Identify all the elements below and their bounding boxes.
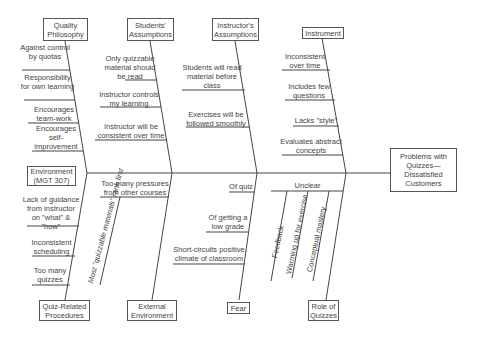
effect-box: Problems with Quizzes—Dissatisfied Custo… [390,148,457,192]
category-quiz-related-procedures: Quiz-Related Procedures [39,300,90,321]
cause-label: Lack of guidance from instructor on "wha… [22,195,80,231]
category-instrument: Instrument [302,27,344,39]
cause-label: Instructor controls my learning [98,90,160,108]
cause-label: Includes few questions [284,82,334,100]
category-instructors-assumptions: Instructor's Assumptions [212,18,259,41]
cause-label: Only quizzable material should be read [100,54,160,81]
cause-label: Against control by quotas [20,43,70,61]
cause-label: Responsibility for own learning [20,73,75,91]
cause-label: Encourages team-work [30,105,78,123]
category-quality-philosophy: Quality Philosophy [43,18,88,41]
cause-label: Lacks "style" [293,116,339,125]
cause-label: Of quiz [228,182,254,191]
cause-label: Unclear [285,181,330,190]
category-fear: Fear [227,302,250,314]
cause-label: Encourages self-improvement [32,124,80,151]
cause-label: Too many quizzes [30,266,70,284]
category-role-of-quizzes: Role of Quizzes [308,300,339,321]
cause-label: Of getting a low grade [206,213,250,231]
environment-box: Environment (MGT 307) [27,166,76,186]
category-students-assumptions: Students' Assumptions [127,18,174,41]
category-external-environment: External Environment [127,300,177,321]
cause-label: Inconsistent scheduling [28,238,75,256]
cause-label: Inconsistent over time [280,52,330,70]
cause-label: Exercises will be followed smoothly [185,110,247,128]
cause-label: Evaluates abstract concepts [280,137,342,155]
cause-label: Instructor will be consistent over time [95,122,167,140]
cause-label: Short-circuits positive climate of class… [172,245,246,263]
cause-label: Students will read material before class [180,63,244,90]
